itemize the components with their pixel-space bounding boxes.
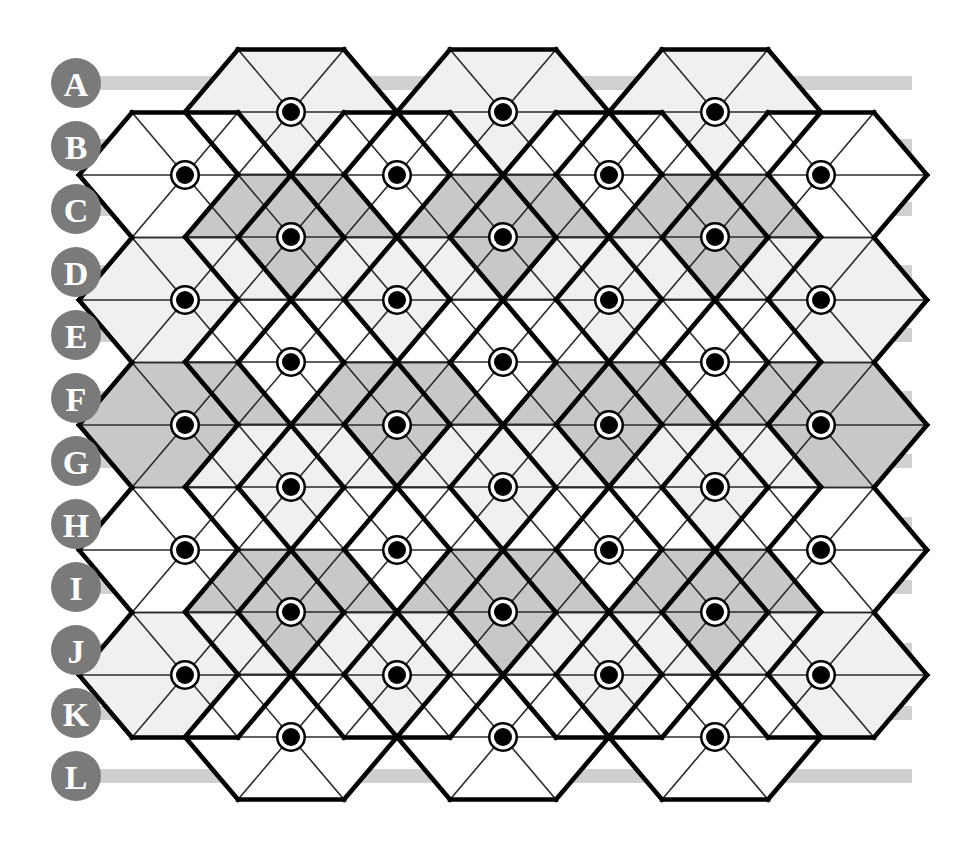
lattice-dot-r1-c2 (594, 160, 624, 190)
row-label-circle-e (51, 310, 101, 360)
lattice-dot-r7-c2 (594, 535, 624, 565)
row-label-l[interactable]: L (51, 751, 101, 801)
hex-lattice-figure: ABCDEFGHIJKL (0, 0, 955, 852)
lattice-dot-r0-c0 (276, 97, 306, 127)
row-label-circle-f (51, 373, 101, 423)
row-label-d[interactable]: D (51, 247, 101, 297)
lattice-dot-r5-c2 (594, 410, 624, 440)
lattice-dot-r7-c0 (170, 535, 200, 565)
lattice-dot-r1-c1 (382, 160, 412, 190)
row-label-c[interactable]: C (51, 184, 101, 234)
lattice-dot-r3-c0 (170, 285, 200, 315)
row-label-circle-k (51, 688, 101, 738)
row-label-i[interactable]: I (51, 562, 101, 612)
lattice-dot-r0-c2 (700, 97, 730, 127)
lattice-dot-r1-c0 (170, 160, 200, 190)
lattice-dot-r10-c0 (276, 722, 306, 752)
lattice-dot-r10-c1 (488, 722, 518, 752)
lattice-dot-r8-c2 (700, 597, 730, 627)
lattice-dot-r9-c2 (594, 660, 624, 690)
row-label-e[interactable]: E (51, 310, 101, 360)
lattice-dot-r8-c0 (276, 597, 306, 627)
lattice-dot-r4-c0 (276, 347, 306, 377)
row-label-f[interactable]: F (51, 373, 101, 423)
row-label-circle-l (51, 751, 101, 801)
lattice-dot-r5-c1 (382, 410, 412, 440)
lattice-dot-r9-c0 (170, 660, 200, 690)
row-label-circle-h (51, 499, 101, 549)
row-label-circle-c (51, 184, 101, 234)
lattice-dot-r6-c1 (488, 472, 518, 502)
lattice-dot-r5-c0 (170, 410, 200, 440)
lattice-dot-r1-c3 (806, 160, 836, 190)
row-label-circle-d (51, 247, 101, 297)
lattice-dot-r3-c3 (806, 285, 836, 315)
lattice-dot-r9-c1 (382, 660, 412, 690)
lattice-dot-r3-c2 (594, 285, 624, 315)
row-label-b[interactable]: B (51, 121, 101, 171)
row-label-circle-b (51, 121, 101, 171)
lattice-dot-r7-c3 (806, 535, 836, 565)
lattice-dot-r8-c1 (488, 597, 518, 627)
lattice-dot-r5-c3 (806, 410, 836, 440)
lattice-dot-r2-c0 (276, 222, 306, 252)
row-label-circle-a (51, 58, 101, 108)
lattice-dot-r4-c2 (700, 347, 730, 377)
lattice-dot-r9-c3 (806, 660, 836, 690)
lattice-dot-r3-c1 (382, 285, 412, 315)
lattice-dot-r4-c1 (488, 347, 518, 377)
row-label-j[interactable]: J (51, 625, 101, 675)
row-label-h[interactable]: H (51, 499, 101, 549)
lattice-dot-r7-c1 (382, 535, 412, 565)
row-label-circle-j (51, 625, 101, 675)
row-label-circle-i (51, 562, 101, 612)
lattice-dot-r2-c2 (700, 222, 730, 252)
row-label-g[interactable]: G (51, 436, 101, 486)
lattice-dot-r10-c2 (700, 722, 730, 752)
lattice-dot-r2-c1 (488, 222, 518, 252)
lattice-dot-r0-c1 (488, 97, 518, 127)
row-label-a[interactable]: A (51, 58, 101, 108)
row-label-circle-g (51, 436, 101, 486)
row-label-k[interactable]: K (51, 688, 101, 738)
lattice-dot-r6-c2 (700, 472, 730, 502)
lattice-dot-r6-c0 (276, 472, 306, 502)
lattice-svg: ABCDEFGHIJKL (0, 0, 955, 852)
